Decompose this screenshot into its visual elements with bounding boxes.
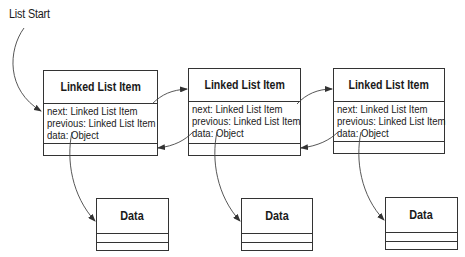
linked-list-item-1: Linked List Item next: Linked List Item … [43,70,158,156]
field-next: next: Linked List Item [337,103,446,115]
linked-list-item-3: Linked List Item next: Linked List Item … [333,68,445,154]
field-data: data: Object [47,129,156,141]
data-box-2: Data [241,198,313,251]
data-title-text: Data [121,209,144,223]
field-next: next: Linked List Item [47,105,156,117]
item-title-text: Linked List Item [204,78,284,92]
item-title-text: Linked List Item [60,80,140,94]
item-methods-divider [334,141,444,142]
linked-list-diagram: List Start Linked List Item next: Linked… [0,0,465,257]
data-title: Data [97,199,168,234]
data-divider [386,241,457,242]
data-box-1: Data [96,198,169,251]
field-previous: previous: Linked List Item [192,115,301,127]
field-data: data: Object [192,127,301,139]
item-fields: next: Linked List Item previous: Linked … [192,103,301,139]
item-methods-divider [44,143,157,144]
linked-list-item-2: Linked List Item next: Linked List Item … [188,68,301,156]
data-box-3: Data [385,197,458,250]
field-next: next: Linked List Item [192,103,301,115]
list-start-label: List Start [9,7,50,21]
field-previous: previous: Linked List Item [337,115,446,127]
item-methods-divider [189,143,300,144]
item-title-text: Linked List Item [349,78,429,92]
data-title-text: Data [265,209,288,223]
next-arrow-2-3 [297,89,332,104]
item-fields: next: Linked List Item previous: Linked … [47,105,156,141]
list-start-arrow [13,28,41,111]
item-title: Linked List Item [334,69,444,102]
data-divider [242,242,312,243]
data-divider [97,242,168,243]
field-data: data: Object [337,127,446,139]
item-fields: next: Linked List Item previous: Linked … [337,103,446,139]
data-title: Data [386,198,457,233]
item-title: Linked List Item [44,71,157,104]
data-title: Data [242,199,312,234]
item-title: Linked List Item [189,69,300,102]
data-title-text: Data [410,208,433,222]
field-previous: previous: Linked List Item [47,117,156,129]
